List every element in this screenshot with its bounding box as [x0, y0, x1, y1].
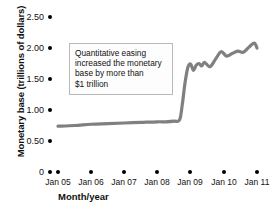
annotation-line-2: increased the monetary [75, 58, 167, 68]
annotation-line-3: base by more than [75, 68, 167, 78]
annotation-box: Quantitative easing increased the moneta… [69, 43, 173, 95]
monetary-base-chart: Monetary base (trillions of dollars) 2.5… [0, 0, 275, 214]
annotation-line-1: Quantitative easing [75, 48, 167, 58]
plot-area [0, 0, 275, 214]
annotation-line-4: $1 trillion [75, 79, 167, 89]
